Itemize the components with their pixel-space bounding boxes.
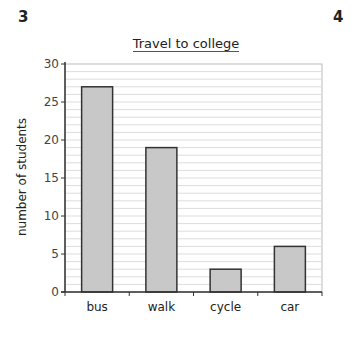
bar-walk (146, 148, 177, 292)
x-category-label: bus (86, 300, 107, 314)
y-tick-label: 15 (44, 171, 59, 185)
y-tick-label: 5 (51, 247, 59, 261)
y-tick-label: 20 (44, 133, 59, 147)
x-category-label: cycle (210, 300, 241, 314)
bar-car (274, 246, 305, 292)
y-tick-label: 10 (44, 209, 59, 223)
y-tick-label: 0 (51, 285, 59, 299)
bar-chart: 051015202530 buswalkcyclecar (0, 0, 352, 338)
bar-cycle (210, 269, 241, 292)
bar-bus (82, 87, 113, 292)
y-axis-ticks: 051015202530 (44, 57, 65, 299)
y-tick-label: 25 (44, 95, 59, 109)
y-tick-label: 30 (44, 57, 59, 71)
x-category-label: walk (148, 300, 176, 314)
x-category-label: car (280, 300, 299, 314)
x-axis-categories: buswalkcyclecar (86, 300, 299, 314)
